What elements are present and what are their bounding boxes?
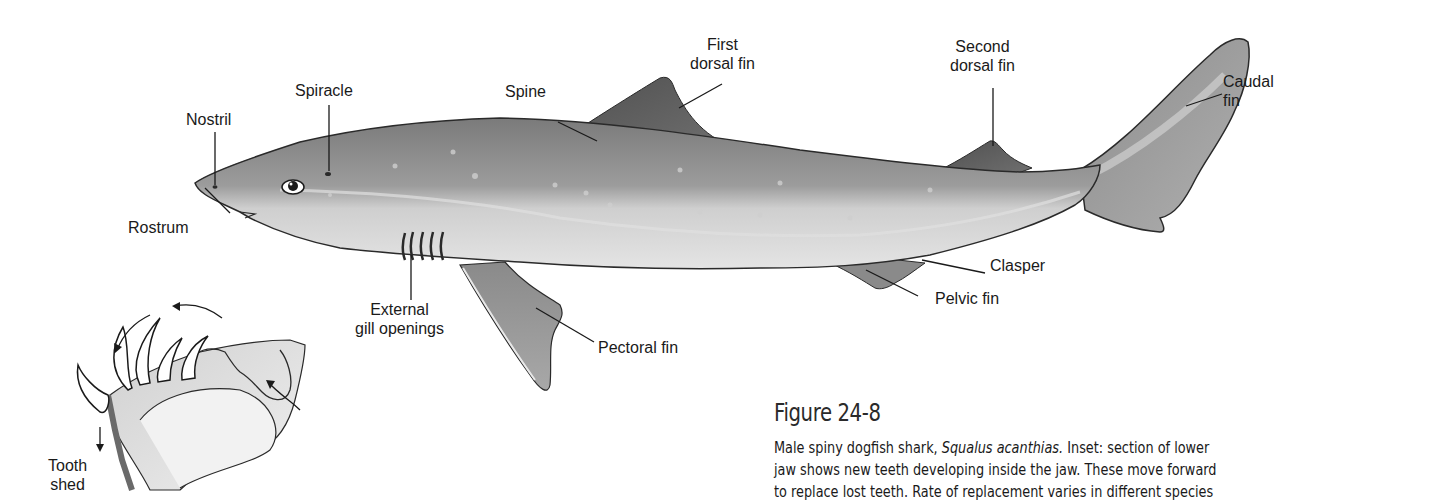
caption-line2: jaw shows new teeth developing inside th…: [774, 459, 1451, 481]
label-second-dorsal-line1: Second: [950, 37, 1015, 56]
label-tooth-shed: Tooth shed: [48, 456, 87, 494]
label-pelvic-fin: Pelvic fin: [935, 289, 999, 308]
label-first-dorsal-line1: First: [690, 35, 755, 54]
label-nostril: Nostril: [186, 110, 231, 129]
eye: [282, 180, 304, 194]
label-tooth-line1: Tooth: [48, 456, 87, 475]
label-spiracle: Spiracle: [295, 81, 353, 100]
label-external-gill-openings: External gill openings: [355, 300, 444, 338]
label-caudal-line1: Caudal: [1223, 72, 1274, 91]
label-second-dorsal-line2: dorsal fin: [950, 56, 1015, 75]
caption-prefix: Male spiny dogfish shark,: [774, 439, 942, 457]
jaw-inset: [77, 302, 305, 490]
label-first-dorsal-line2: dorsal fin: [690, 54, 755, 73]
label-gill-line2: gill openings: [355, 319, 444, 338]
label-pectoral-fin: Pectoral fin: [598, 338, 678, 357]
shark-figure: Nostril Spiracle Rostrum Spine First dor…: [0, 0, 1451, 503]
spiracle: [325, 172, 331, 176]
label-first-dorsal-fin: First dorsal fin: [690, 35, 755, 73]
label-gill-line1: External: [355, 300, 444, 319]
label-rostrum: Rostrum: [128, 218, 188, 237]
label-clasper: Clasper: [990, 256, 1045, 275]
caption-species: Squalus acanthias.: [942, 439, 1063, 457]
nostril: [213, 185, 218, 189]
figure-caption: Male spiny dogfish shark, Squalus acanth…: [774, 437, 1451, 503]
caption-line1: Male spiny dogfish shark, Squalus acanth…: [774, 437, 1451, 459]
figure-title: Figure 24-8: [774, 399, 880, 427]
caudal-fin: [1080, 39, 1249, 232]
caption-rest-line1: Inset: section of lower: [1063, 439, 1209, 457]
label-spine: Spine: [505, 82, 546, 101]
label-caudal-fin: Caudal fin: [1223, 72, 1274, 110]
label-tooth-line2: shed: [48, 475, 87, 494]
caption-line3: to replace lost teeth. Rate of replaceme…: [774, 481, 1451, 503]
pectoral-fin: [460, 262, 562, 390]
label-second-dorsal-fin: Second dorsal fin: [950, 37, 1015, 75]
label-caudal-line2: fin: [1223, 91, 1274, 110]
